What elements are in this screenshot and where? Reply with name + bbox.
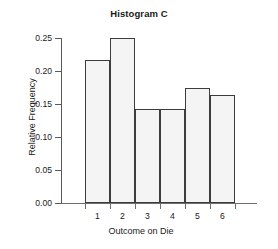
histogram-bar bbox=[110, 38, 135, 203]
x-tick-label: 3 bbox=[135, 211, 161, 221]
y-tick-label: 0.15 bbox=[0, 99, 52, 109]
y-tick-label: 0.10 bbox=[0, 132, 52, 142]
x-tick-mark bbox=[110, 204, 111, 209]
y-tick-mark bbox=[55, 71, 61, 72]
x-tick-label: 5 bbox=[185, 211, 211, 221]
y-tick-mark bbox=[55, 170, 61, 171]
y-axis-line bbox=[61, 38, 62, 204]
histogram-bar bbox=[210, 95, 235, 203]
x-tick-label: 6 bbox=[210, 211, 236, 221]
y-tick-mark bbox=[55, 137, 61, 138]
plot-area: 0.000.050.100.150.200.25 123456 bbox=[0, 0, 278, 249]
x-tick-mark bbox=[235, 204, 236, 209]
x-tick-mark bbox=[210, 204, 211, 209]
x-tick-label: 4 bbox=[160, 211, 186, 221]
histogram-bar bbox=[85, 60, 110, 203]
histogram-bar bbox=[185, 88, 210, 204]
x-axis-line bbox=[61, 203, 257, 204]
y-tick-label: 0.00 bbox=[0, 198, 52, 208]
x-tick-label: 2 bbox=[110, 211, 136, 221]
histogram-bar bbox=[135, 109, 160, 203]
x-tick-mark bbox=[160, 204, 161, 209]
y-tick-label: 0.05 bbox=[0, 165, 52, 175]
x-tick-mark bbox=[85, 204, 86, 209]
x-tick-label: 1 bbox=[85, 211, 111, 221]
x-tick-mark bbox=[135, 204, 136, 209]
histogram-figure: Histogram C Relative Frequency Outcome o… bbox=[0, 0, 278, 249]
y-tick-label: 0.25 bbox=[0, 33, 52, 43]
y-tick-mark bbox=[55, 38, 61, 39]
y-tick-label: 0.20 bbox=[0, 66, 52, 76]
y-tick-mark bbox=[55, 203, 61, 204]
y-tick-mark bbox=[55, 104, 61, 105]
x-tick-mark bbox=[185, 204, 186, 209]
histogram-bar bbox=[160, 109, 185, 203]
